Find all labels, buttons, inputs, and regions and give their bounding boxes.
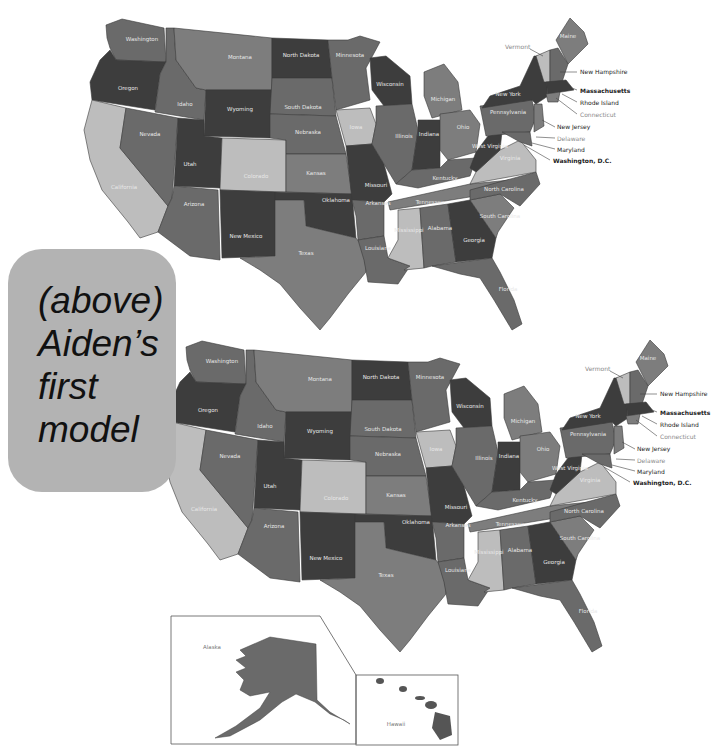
hawaii-inset: Hawaii — [356, 675, 458, 745]
label-louisiana: Louisiana — [445, 567, 471, 573]
label-virginia: Virginia — [500, 155, 521, 162]
state-arkansas — [352, 200, 384, 240]
label-california: California — [191, 506, 217, 512]
label-nebraska: Nebraska — [375, 451, 401, 457]
callout-maryland: Maryland — [637, 468, 665, 476]
state-colorado — [300, 460, 366, 514]
label-south-carolina: South Carolina — [480, 213, 520, 219]
label-arizona: Arizona — [184, 201, 205, 207]
callout-connecticut: Connecticut — [580, 111, 617, 118]
label-west-virginia: West Virginia — [552, 465, 588, 472]
label-new-mexico: New Mexico — [230, 233, 264, 239]
label-montana: Montana — [308, 376, 332, 382]
label-oklahoma: Oklahoma — [402, 519, 430, 525]
state-ohio — [520, 432, 560, 482]
callout-new-hampshire: New Hampshire — [660, 390, 708, 398]
label-utah: Utah — [183, 161, 197, 167]
label-west-virginia: West Virginia — [472, 143, 508, 150]
label-michigan: Michigan — [431, 96, 456, 103]
state-south-dakota — [350, 400, 416, 438]
label-arizona: Arizona — [264, 523, 285, 529]
label-pennsylvania: Pennsylvania — [490, 109, 526, 116]
label-north-dakota: North Dakota — [363, 374, 400, 380]
label-florida: Florida — [499, 286, 518, 292]
label-missouri: Missouri — [445, 504, 468, 510]
label-wisconsin: Wisconsin — [456, 403, 484, 409]
label-north-carolina: North Carolina — [484, 186, 524, 192]
callout-washington-dc: Washington, D.C. — [553, 157, 612, 165]
callout-massachusetts: Massachusetts — [660, 409, 711, 416]
label-montana: Montana — [228, 54, 252, 60]
label-maine: Maine — [560, 33, 577, 39]
us-map-bottom: Washington Oregon California Idaho Nevad… — [164, 340, 711, 652]
label-michigan: Michigan — [511, 418, 536, 425]
label-kansas: Kansas — [306, 170, 326, 176]
label-nevada: Nevada — [220, 453, 241, 459]
state-connecticut — [546, 92, 560, 102]
callout-vermont: Vermont — [505, 43, 531, 50]
label-kentucky: Kentucky — [432, 175, 458, 182]
callout-rhode-island: Rhode Island — [660, 421, 699, 428]
callout-delaware: Delaware — [637, 457, 666, 464]
label-new-mexico: New Mexico — [310, 555, 344, 561]
callout-maryland: Maryland — [557, 146, 585, 154]
state-wyoming — [204, 90, 272, 138]
state-arkansas — [432, 522, 464, 562]
state-florida — [512, 580, 602, 652]
label-north-dakota: North Dakota — [283, 52, 320, 58]
label-colorado: Colorado — [244, 173, 269, 179]
alaska-inset: Alaska — [171, 616, 356, 744]
label-colorado: Colorado — [324, 495, 349, 501]
label-wisconsin: Wisconsin — [376, 81, 404, 87]
state-colorado — [220, 138, 286, 192]
callout-washington-dc: Washington, D.C. — [633, 479, 692, 487]
note-line-4: model — [38, 408, 176, 451]
note-line-1: (above) — [38, 279, 176, 322]
state-new-mexico — [300, 512, 355, 580]
label-utah: Utah — [263, 483, 277, 489]
label-minnesota: Minnesota — [336, 52, 364, 58]
label-alabama: Alabama — [428, 225, 452, 231]
label-illinois: Illinois — [475, 455, 493, 461]
note-line-3: first — [38, 365, 176, 408]
callout-connecticut: Connecticut — [660, 433, 697, 440]
label-south-carolina: South Carolina — [560, 535, 600, 541]
label-hawaii: Hawaii — [387, 721, 406, 727]
label-pennsylvania: Pennsylvania — [570, 431, 606, 438]
label-arkansas: Arkansas — [445, 522, 470, 528]
label-new-york: New York — [575, 413, 601, 419]
label-iowa: Iowa — [430, 446, 443, 452]
label-texas: Texas — [377, 572, 393, 578]
label-tennessee: Tennessee — [415, 199, 445, 205]
label-nebraska: Nebraska — [295, 129, 321, 135]
state-south-dakota — [270, 78, 336, 116]
callout-new-hampshire: New Hampshire — [580, 68, 628, 76]
state-new-jersey — [614, 426, 624, 454]
label-arkansas: Arkansas — [365, 200, 390, 206]
state-connecticut — [626, 414, 640, 424]
label-oregon: Oregon — [118, 85, 139, 92]
label-california: California — [111, 184, 137, 190]
state-ohio — [440, 110, 480, 160]
callout-delaware: Delaware — [557, 135, 586, 142]
label-iowa: Iowa — [350, 124, 363, 130]
label-oregon: Oregon — [198, 407, 219, 414]
callout-vermont: Vermont — [585, 365, 611, 372]
state-florida — [432, 258, 522, 330]
label-wyoming: Wyoming — [307, 428, 333, 435]
callout-rhode-island: Rhode Island — [580, 99, 619, 106]
label-north-carolina: North Carolina — [564, 508, 604, 514]
label-oklahoma: Oklahoma — [322, 197, 350, 203]
label-illinois: Illinois — [395, 133, 413, 139]
state-new-jersey — [534, 104, 544, 132]
label-tennessee: Tennessee — [495, 521, 525, 527]
state-michigan — [504, 386, 542, 440]
label-georgia: Georgia — [543, 559, 565, 566]
label-alaska: Alaska — [203, 644, 221, 650]
alaska-shape — [215, 637, 350, 738]
label-ohio: Ohio — [457, 124, 470, 130]
label-maine: Maine — [640, 355, 657, 361]
label-idaho: Idaho — [257, 423, 273, 429]
label-minnesota: Minnesota — [416, 374, 444, 380]
label-florida: Florida — [579, 608, 598, 614]
